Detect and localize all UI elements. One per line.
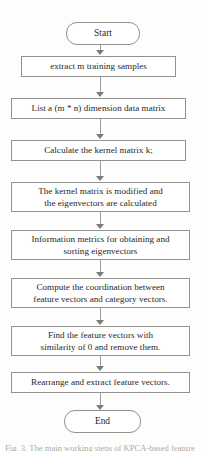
node-list-data-matrix-label: List a (m * n) dimension data matrix <box>15 102 182 114</box>
node-start: Start <box>66 22 140 45</box>
figure-caption-clipped: Fig. 3. The main working steps of KPCA-b… <box>0 443 206 451</box>
clipped-top-artifact <box>0 0 206 9</box>
arrowhead-step6-to-step7 <box>96 320 104 325</box>
node-modify-kernel-matrix: The kernel matrix is modified and the ei… <box>11 182 190 212</box>
node-information-metrics: Information metrics for obtaining and so… <box>11 230 190 260</box>
arrowhead-step1-to-step2 <box>96 92 104 97</box>
node-modify-kernel-matrix-label-line2: the eigenvectors are calculated <box>15 197 186 209</box>
node-find-remove-feature-vectors: Find the feature vectors with similarity… <box>11 326 190 356</box>
node-compute-coordination-label-line2: feature vectors and category vectors. <box>15 293 186 305</box>
arrowhead-start-to-step1 <box>96 50 104 55</box>
node-rearrange-extract-feature-vectors: Rearrange and extract feature vectors. <box>11 372 190 393</box>
arrowhead-step3-to-step4 <box>96 176 104 181</box>
node-end: End <box>64 410 141 433</box>
node-list-data-matrix: List a (m * n) dimension data matrix <box>11 98 186 119</box>
node-end-label: End <box>68 415 137 427</box>
flowchart-figure: Start extract m training samples List a … <box>0 0 206 451</box>
node-calculate-kernel-matrix-label: Calculate the kernel matrix k; <box>15 144 182 156</box>
node-extract-training-samples-label: extract m training samples <box>25 60 172 72</box>
arrowhead-step7-to-step8 <box>96 366 104 371</box>
node-compute-coordination: Compute the coordination between feature… <box>11 278 190 308</box>
arrowhead-step5-to-step6 <box>96 272 104 277</box>
node-start-label: Start <box>70 27 136 39</box>
node-calculate-kernel-matrix: Calculate the kernel matrix k; <box>11 140 186 161</box>
node-modify-kernel-matrix-label-line1: The kernel matrix is modified and <box>38 186 163 196</box>
arrowhead-step2-to-step3 <box>96 134 104 139</box>
edge-step3-to-step4 <box>100 161 101 177</box>
node-rearrange-extract-feature-vectors-label: Rearrange and extract feature vectors. <box>15 376 186 388</box>
node-find-remove-feature-vectors-label-line1: Find the feature vectors with <box>48 330 153 340</box>
arrowhead-step4-to-step5 <box>96 224 104 229</box>
node-information-metrics-label-line2: sorting eigenvectors <box>15 245 186 257</box>
edge-step1-to-step2 <box>100 77 101 93</box>
node-find-remove-feature-vectors-label-line2: similarity of 0 and remove them. <box>15 341 186 353</box>
node-compute-coordination-label-line1: Compute the coordination between <box>36 282 164 292</box>
node-extract-training-samples: extract m training samples <box>21 56 176 77</box>
node-information-metrics-label-line1: Information metrics for obtaining and <box>31 234 169 244</box>
edge-step2-to-step3 <box>100 119 101 135</box>
